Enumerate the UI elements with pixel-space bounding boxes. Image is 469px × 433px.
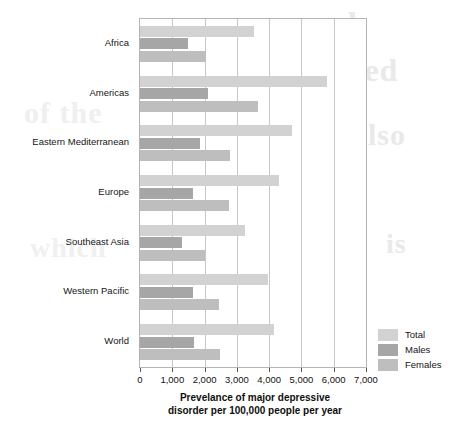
x-tick-label-2000: 2,000 bbox=[193, 374, 217, 385]
bar-total-world bbox=[140, 324, 274, 335]
x-tick-2000 bbox=[205, 368, 206, 372]
bar-males-eastern-mediterranean bbox=[140, 138, 200, 149]
bar-total-americas bbox=[140, 76, 327, 87]
x-tick-label-6000: 6,000 bbox=[322, 374, 346, 385]
x-tick-label-5000: 5,000 bbox=[290, 374, 314, 385]
category-label-europe: Europe bbox=[98, 186, 129, 197]
bar-females-eastern-mediterranean bbox=[140, 150, 230, 161]
bar-total-europe bbox=[140, 175, 279, 186]
x-tick-label-4000: 4,000 bbox=[257, 374, 281, 385]
legend-label-females: Females bbox=[405, 359, 441, 370]
category-label-southeast-asia: Southeast Asia bbox=[66, 236, 129, 247]
x-tick-label-0: 0 bbox=[137, 374, 142, 385]
bar-males-world bbox=[140, 337, 194, 348]
bar-chart-figure: AfricaAmericasEastern MediterraneanEurop… bbox=[0, 0, 469, 433]
x-tick-6000 bbox=[334, 368, 335, 372]
x-tick-0 bbox=[140, 368, 141, 372]
x-tick-4000 bbox=[269, 368, 270, 372]
x-axis-title-line-2: disorder per 100,000 people per year bbox=[120, 405, 390, 418]
legend-swatch-total bbox=[378, 329, 398, 341]
legend-label-total: Total bbox=[405, 329, 425, 340]
bar-total-africa bbox=[140, 26, 254, 37]
x-tick-1000 bbox=[172, 368, 173, 372]
x-tick-5000 bbox=[301, 368, 302, 372]
x-axis-title: Prevelance of major depressive disorder … bbox=[120, 392, 390, 417]
bar-males-southeast-asia bbox=[140, 237, 182, 248]
bar-males-africa bbox=[140, 38, 188, 49]
category-axis-labels: AfricaAmericasEastern MediterraneanEurop… bbox=[0, 18, 134, 368]
legend: TotalMalesFemales bbox=[378, 327, 466, 372]
bar-females-americas bbox=[140, 101, 258, 112]
category-label-eastern-mediterranean: Eastern Mediterranean bbox=[32, 136, 129, 147]
x-tick-label-1000: 1,000 bbox=[160, 374, 184, 385]
bar-females-africa bbox=[140, 51, 206, 62]
bar-females-southeast-asia bbox=[140, 250, 205, 261]
bar-total-western-pacific bbox=[140, 274, 268, 285]
x-axis-title-line-1: Prevelance of major depressive bbox=[120, 392, 390, 405]
bar-females-europe bbox=[140, 200, 229, 211]
x-axis-tick-labels: 01,0002,0003,0004,0005,0006,0007,000 bbox=[0, 374, 469, 388]
bar-females-world bbox=[140, 349, 220, 360]
x-tick-3000 bbox=[237, 368, 238, 372]
category-label-americas: Americas bbox=[89, 87, 129, 98]
category-label-africa: Africa bbox=[105, 37, 129, 48]
legend-item-total: Total bbox=[378, 327, 466, 342]
bar-total-southeast-asia bbox=[140, 225, 245, 236]
legend-item-males: Males bbox=[378, 342, 466, 357]
x-tick-label-3000: 3,000 bbox=[225, 374, 249, 385]
x-axis-ticks bbox=[139, 368, 367, 373]
bar-males-western-pacific bbox=[140, 287, 193, 298]
legend-swatch-males bbox=[378, 344, 398, 356]
x-tick-7000 bbox=[366, 368, 367, 372]
bar-males-americas bbox=[140, 88, 208, 99]
bar-total-eastern-mediterranean bbox=[140, 125, 292, 136]
legend-item-females: Females bbox=[378, 357, 466, 372]
bars-layer bbox=[140, 19, 366, 367]
category-label-world: World bbox=[104, 335, 129, 346]
legend-label-males: Males bbox=[405, 344, 430, 355]
bar-males-europe bbox=[140, 188, 193, 199]
bar-females-western-pacific bbox=[140, 299, 219, 310]
legend-swatch-females bbox=[378, 359, 398, 371]
x-tick-label-7000: 7,000 bbox=[354, 374, 378, 385]
category-label-western-pacific: Western Pacific bbox=[63, 285, 129, 296]
